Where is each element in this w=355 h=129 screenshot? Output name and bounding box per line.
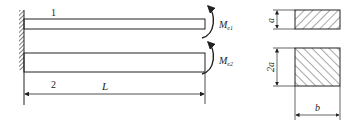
beam-2: 2 [24,53,205,90]
moment-arrow-1: Me1 [202,6,233,38]
cantilever-diagram: 1 2 Me1 Me2 L a 2a b [0,0,355,129]
section-2-height-label: 2a [265,62,276,72]
beam-1-label: 1 [51,7,56,18]
length-label: L [101,80,108,92]
svg-text:Me2: Me2 [218,55,233,67]
section-1-height-label: a [265,18,276,23]
moment-2-subscript: e2 [227,61,233,67]
cross-section-1: a [265,10,340,29]
cross-section-2: 2a b [265,48,340,120]
fixed-wall [19,10,24,105]
beam-1: 1 [24,7,205,29]
moment-arrow-2: Me2 [202,42,233,74]
svg-text:Me1: Me1 [218,19,233,31]
section-2-width-label: b [315,102,320,113]
beam-2-label: 2 [51,79,56,90]
moment-1-subscript: e1 [227,25,233,31]
